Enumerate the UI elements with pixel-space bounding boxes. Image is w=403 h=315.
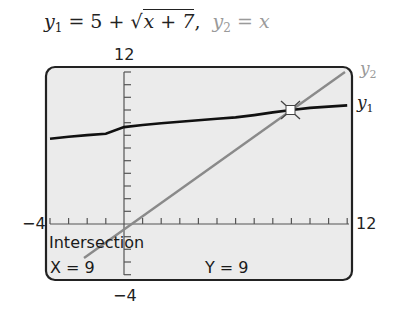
- y-readout: Y = 9: [205, 258, 249, 277]
- x-readout: X = 9: [50, 258, 95, 277]
- intersection-status: Intersection: [49, 233, 144, 252]
